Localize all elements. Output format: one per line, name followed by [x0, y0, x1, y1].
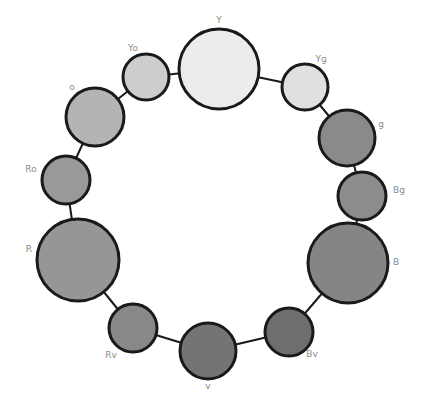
node-label-Yg: Yg	[314, 54, 326, 64]
color-wheel-diagram: YYggBgBBvvRvRRooYo	[0, 0, 422, 408]
node-label-Rv: Rv	[105, 350, 117, 360]
node-circle-Yg	[282, 64, 328, 110]
node-label-R: R	[26, 244, 32, 254]
node-circle-g	[319, 110, 375, 166]
node-circle-v	[180, 323, 236, 379]
node-label-B: B	[393, 257, 399, 267]
node-circle-Rv	[109, 304, 157, 352]
node-label-Bg: Bg	[393, 185, 405, 195]
node-label-Ro: Ro	[25, 164, 37, 174]
node-circle-Y	[179, 29, 259, 109]
node-label-v: v	[205, 381, 211, 391]
color-nodes	[37, 29, 388, 379]
node-circle-o	[66, 88, 124, 146]
node-circle-Ro	[42, 156, 90, 204]
node-circle-R	[37, 219, 119, 301]
node-circle-B	[308, 223, 388, 303]
node-circle-Bg	[338, 172, 386, 220]
node-label-o: o	[69, 82, 75, 92]
node-label-Yo: Yo	[127, 43, 138, 53]
node-label-Y: Y	[215, 15, 222, 25]
node-label-g: g	[378, 119, 384, 129]
node-label-Bv: Bv	[306, 349, 318, 359]
node-circle-Yo	[123, 54, 169, 100]
